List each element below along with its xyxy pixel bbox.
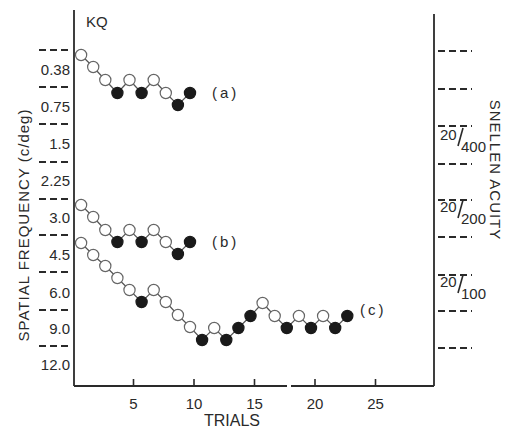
svg-text:20: 20: [440, 126, 457, 143]
left-y-axis-ticks: 0.380.751.52.253.04.56.09.012.0: [39, 50, 72, 373]
filled-marker: [305, 322, 316, 333]
filled-marker: [136, 296, 147, 307]
left-tick-label: 0.38: [41, 61, 70, 78]
open-marker: [88, 61, 99, 72]
filled-marker: [184, 87, 195, 98]
open-marker: [184, 321, 195, 332]
open-marker: [76, 49, 87, 60]
svg-text:200: 200: [461, 210, 486, 227]
series-label: (b): [212, 233, 239, 250]
x-tick-label: 15: [246, 395, 263, 412]
x-tick-label: 20: [307, 395, 324, 412]
y-axis-label-left: SPATIAL FREQUENCY (c/deg): [15, 109, 32, 342]
filled-marker: [197, 334, 208, 345]
snellen-label: 20400: [440, 126, 486, 155]
open-marker: [293, 310, 304, 321]
svg-text:400: 400: [461, 138, 486, 155]
open-marker: [88, 249, 99, 260]
x-axis-label: TRIALS: [204, 412, 260, 429]
open-marker: [209, 322, 220, 333]
open-marker: [160, 236, 171, 247]
filled-marker: [233, 322, 244, 333]
y-axis-label-right: SNELLEN ACUITY: [487, 100, 504, 241]
left-tick-label: 6.0: [49, 284, 70, 301]
open-marker: [269, 310, 280, 321]
series-b: (b): [76, 199, 240, 259]
filled-marker: [281, 322, 292, 333]
x-axis-ticks: 510152025: [129, 379, 384, 412]
filled-marker: [184, 236, 195, 247]
left-tick-label: 9.0: [49, 320, 70, 337]
open-marker: [318, 310, 329, 321]
right-y-axis-ticks: 204002020020100: [438, 51, 486, 348]
svg-text:20: 20: [440, 198, 457, 215]
filled-marker: [136, 236, 147, 247]
series-c: (c): [76, 237, 387, 345]
open-marker: [160, 296, 171, 307]
open-marker: [100, 74, 111, 85]
filled-marker: [112, 87, 123, 98]
svg-text:20: 20: [440, 273, 457, 290]
snellen-label: 20100: [440, 273, 486, 302]
staircase-chart: 0.380.751.52.253.04.56.09.012.0 20400202…: [0, 0, 521, 442]
open-marker: [160, 87, 171, 98]
series-a: (a): [76, 49, 240, 110]
open-marker: [172, 309, 183, 320]
series-label: (c): [360, 301, 387, 318]
filled-marker: [342, 310, 353, 321]
x-tick-label: 10: [186, 395, 203, 412]
open-marker: [100, 260, 111, 271]
data-series: (a)(b)(c): [76, 49, 387, 345]
open-marker: [76, 199, 87, 210]
filled-marker: [136, 87, 147, 98]
axes: [74, 10, 434, 386]
left-tick-label: 4.5: [49, 246, 70, 263]
left-tick-label: 0.75: [41, 98, 70, 115]
filled-marker: [172, 99, 183, 110]
open-marker: [76, 237, 87, 248]
open-marker: [148, 224, 159, 235]
open-marker: [257, 297, 268, 308]
x-tick-label: 5: [129, 395, 137, 412]
x-tick-label: 25: [367, 395, 384, 412]
open-marker: [124, 224, 135, 235]
left-tick-label: 12.0: [41, 356, 70, 373]
snellen-label: 20200: [440, 198, 486, 227]
filled-marker: [221, 334, 232, 345]
left-tick-label: 3.0: [49, 209, 70, 226]
filled-marker: [330, 322, 341, 333]
series-label: (a): [212, 84, 239, 101]
open-marker: [124, 74, 135, 85]
open-marker: [100, 224, 111, 235]
left-tick-label: 1.5: [49, 135, 70, 152]
filled-marker: [172, 248, 183, 259]
chart-title: KQ: [86, 13, 108, 30]
open-marker: [88, 211, 99, 222]
filled-marker: [245, 310, 256, 321]
open-marker: [124, 284, 135, 295]
open-marker: [112, 272, 123, 283]
svg-text:100: 100: [461, 285, 486, 302]
filled-marker: [112, 236, 123, 247]
left-tick-label: 2.25: [41, 172, 70, 189]
open-marker: [148, 284, 159, 295]
open-marker: [148, 74, 159, 85]
